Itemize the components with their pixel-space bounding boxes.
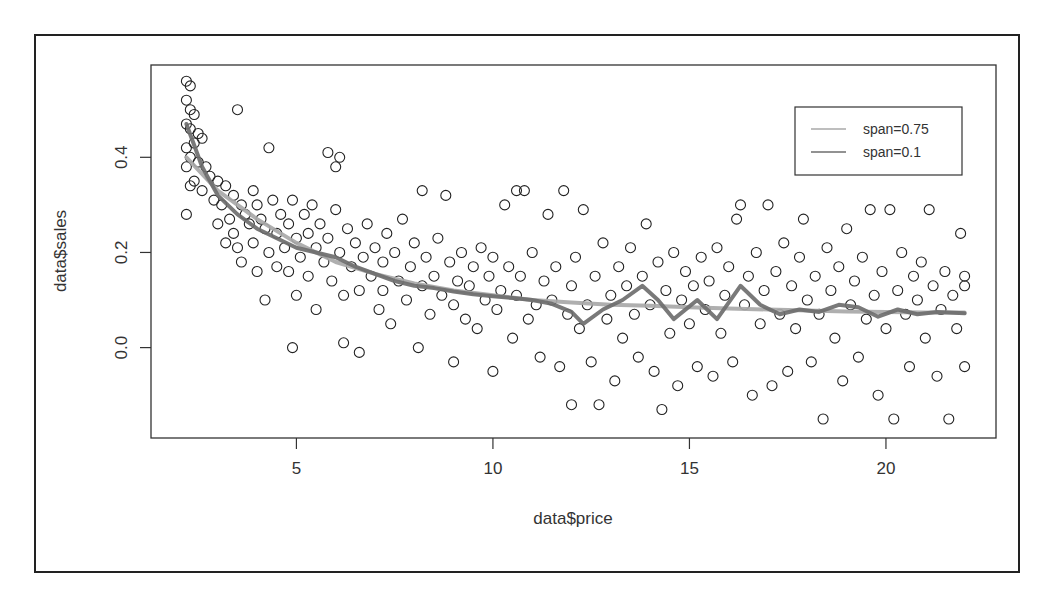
legend-label-span-075: span=0.75 — [863, 121, 929, 137]
data-point — [225, 214, 235, 224]
data-point — [323, 148, 333, 158]
data-point — [276, 209, 286, 219]
data-point — [720, 290, 730, 300]
data-point — [453, 276, 463, 286]
data-point — [409, 238, 419, 248]
data-point — [295, 252, 305, 262]
data-point — [213, 219, 223, 229]
data-point — [413, 343, 423, 353]
data-point — [614, 262, 624, 272]
data-point — [889, 414, 899, 424]
data-point — [688, 281, 698, 291]
data-point — [633, 352, 643, 362]
data-point — [272, 262, 282, 272]
data-point — [284, 219, 294, 229]
x-tick-label: 20 — [876, 459, 895, 478]
data-point — [920, 333, 930, 343]
data-point — [810, 271, 820, 281]
data-point — [343, 224, 353, 234]
data-point — [861, 314, 871, 324]
data-point — [382, 228, 392, 238]
data-point — [472, 324, 482, 334]
data-point — [327, 276, 337, 286]
data-point — [956, 228, 966, 238]
data-point — [629, 309, 639, 319]
data-point — [405, 262, 415, 272]
data-point — [307, 200, 317, 210]
data-point — [893, 286, 903, 296]
data-point — [233, 243, 243, 253]
data-point — [681, 267, 691, 277]
data-point — [299, 209, 309, 219]
data-point — [476, 243, 486, 253]
data-point — [402, 295, 412, 305]
data-point — [539, 276, 549, 286]
data-point — [515, 271, 525, 281]
data-point — [865, 205, 875, 215]
data-point — [181, 95, 191, 105]
data-point — [590, 271, 600, 281]
data-point — [924, 205, 934, 215]
data-point — [464, 281, 474, 291]
data-point — [641, 219, 651, 229]
data-point — [696, 252, 706, 262]
data-point — [248, 186, 258, 196]
data-point — [598, 238, 608, 248]
data-point — [425, 309, 435, 319]
data-point — [252, 200, 262, 210]
data-point — [822, 243, 832, 253]
data-point — [492, 305, 502, 315]
data-point — [221, 238, 231, 248]
data-point — [787, 281, 797, 291]
data-point — [567, 400, 577, 410]
data-point — [252, 267, 262, 277]
data-point — [677, 295, 687, 305]
data-point — [350, 238, 360, 248]
data-point — [303, 228, 313, 238]
legend-box — [795, 107, 962, 175]
data-point — [704, 276, 714, 286]
data-point — [378, 257, 388, 267]
data-point — [571, 252, 581, 262]
data-point — [354, 286, 364, 296]
data-point — [390, 248, 400, 258]
data-point — [960, 271, 970, 281]
data-point — [665, 328, 675, 338]
data-point — [834, 262, 844, 272]
data-point — [508, 333, 518, 343]
data-point — [417, 186, 427, 196]
data-point — [912, 295, 922, 305]
data-point — [857, 252, 867, 262]
data-point — [661, 286, 671, 296]
data-point — [512, 186, 522, 196]
data-point — [543, 209, 553, 219]
data-point — [567, 281, 577, 291]
data-point — [303, 271, 313, 281]
data-point — [960, 362, 970, 372]
data-point — [378, 286, 388, 296]
data-point — [818, 414, 828, 424]
data-point — [928, 281, 938, 291]
data-point — [673, 381, 683, 391]
data-point — [684, 319, 694, 329]
data-point — [712, 243, 722, 253]
data-point — [830, 333, 840, 343]
data-point — [594, 400, 604, 410]
data-point — [751, 248, 761, 258]
data-point — [802, 295, 812, 305]
data-point — [755, 319, 765, 329]
data-point — [445, 257, 455, 267]
data-point — [527, 248, 537, 258]
data-point — [457, 248, 467, 258]
data-point — [873, 390, 883, 400]
x-tick-label: 15 — [680, 459, 699, 478]
data-point — [421, 252, 431, 262]
data-point — [331, 205, 341, 215]
data-point — [488, 366, 498, 376]
data-point — [181, 143, 191, 153]
data-point — [728, 357, 738, 367]
data-point — [197, 186, 207, 196]
data-point — [488, 252, 498, 262]
scatter-plot: 51015200.00.20.4 data$price data$sales s… — [0, 0, 1049, 603]
y-tick-label: 0.0 — [112, 336, 131, 360]
